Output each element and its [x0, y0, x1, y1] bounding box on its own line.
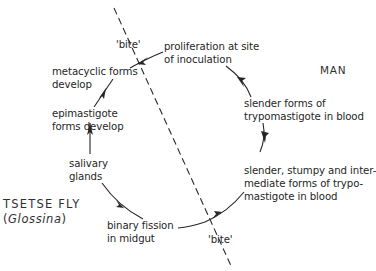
- arrow-proliferation-to-slender: [226, 66, 251, 97]
- arrowhead-binary-fission-to-salivary: [116, 200, 124, 208]
- stage-line: salivary: [69, 157, 108, 170]
- genus-close-paren: ): [62, 212, 67, 226]
- stage-mixed-forms: slender, stumpy and inter- mediate forms…: [244, 164, 376, 203]
- stage-metacyclic: metacyclic forms develop: [52, 65, 138, 91]
- bite-label-top: 'bite': [116, 38, 141, 51]
- stage-slender-forms: slender forms of trypomastigote in blood: [244, 97, 364, 123]
- genus-name: Glossina: [8, 212, 61, 226]
- stage-line: develop: [52, 78, 138, 91]
- stage-binary-fission: binary fission in midgut: [107, 219, 174, 245]
- arrow-binary-fission-to-salivary: [102, 183, 143, 219]
- host-label-tsetse: TSETSE FLY (Glossina): [3, 197, 80, 227]
- stage-line: forms develop: [52, 120, 124, 133]
- bite-label-bottom: 'bite': [208, 233, 233, 246]
- stage-line: trypomastigote in blood: [244, 110, 364, 123]
- stage-line: proliferation at site: [164, 40, 259, 53]
- tsetse-genus-line: (Glossina): [3, 212, 80, 227]
- stage-line: mediate forms of trypo-: [244, 177, 376, 190]
- stage-proliferation: proliferation at site of inoculation: [164, 40, 259, 66]
- arrowhead-bottom-bite: [212, 211, 222, 219]
- arrowhead-slender-to-mixed: [261, 131, 269, 143]
- stage-line: in midgut: [107, 232, 174, 245]
- stage-line: slender, stumpy and inter-: [244, 164, 376, 177]
- stage-line: of inoculation: [164, 53, 259, 66]
- stage-line: binary fission: [107, 219, 174, 232]
- stage-line: glands: [69, 170, 108, 183]
- stage-line: slender forms of: [244, 97, 364, 110]
- life-cycle-diagram: 'bite' 'bite' proliferation at site of i…: [0, 0, 376, 271]
- stage-line: mastigote in blood: [244, 190, 376, 203]
- stage-line: metacyclic forms: [52, 65, 138, 78]
- host-label-man: MAN: [320, 63, 347, 78]
- tsetse-label: TSETSE FLY: [3, 197, 80, 212]
- stage-salivary-glands: salivary glands: [69, 157, 108, 183]
- stage-epimastigote: epimastigote forms develop: [52, 107, 124, 133]
- stage-line: epimastigote: [52, 107, 124, 120]
